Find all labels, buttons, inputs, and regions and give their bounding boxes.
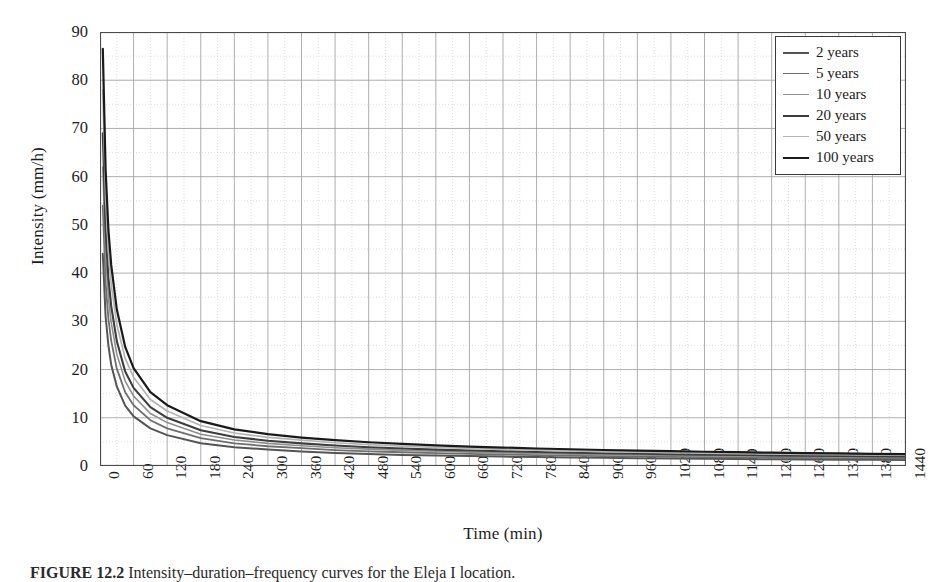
y-tick-label: 80 [42,72,88,89]
legend-line-icon [783,115,809,117]
legend-line-icon [783,73,809,74]
y-tick-label: 30 [42,313,88,330]
legend-item-label: 5 years [816,66,859,81]
caption-text: Intensity–duration–frequency curves for … [124,564,515,581]
legend-item-100-years[interactable]: 100 years [783,147,894,168]
x-axis-title: Time (min) [100,524,906,544]
y-tick-label: 0 [42,458,88,475]
legend-item-2-years[interactable]: 2 years [783,42,894,63]
y-tick-label: 90 [42,24,88,41]
y-tick-label: 70 [42,120,88,137]
legend-line-icon [783,94,809,95]
y-tick-label: 50 [42,217,88,234]
legend-item-label: 2 years [816,45,859,60]
caption-figure-number: FIGURE 12.2 [30,564,124,581]
legend-item-label: 20 years [816,108,866,123]
y-tick-label: 20 [42,362,88,379]
legend-item-50-years[interactable]: 50 years [783,126,894,147]
legend-item-10-years[interactable]: 10 years [783,84,894,105]
legend-line-icon [783,136,809,137]
legend-line-icon [783,52,809,54]
figure-caption: FIGURE 12.2 Intensity–duration–frequency… [30,564,910,582]
legend-item-label: 50 years [816,129,866,144]
y-tick-label: 40 [42,265,88,282]
legend-item-label: 100 years [816,150,874,165]
y-tick-label: 60 [42,169,88,186]
chart-legend: 2 years5 years10 years20 years50 years10… [775,36,901,175]
x-tick-label: 0 [106,471,122,479]
legend-item-5-years[interactable]: 5 years [783,63,894,84]
legend-item-label: 10 years [816,87,866,102]
legend-line-icon [783,157,809,159]
y-tick-label: 10 [42,410,88,427]
x-tick-label: 1440 [912,448,928,479]
legend-item-20-years[interactable]: 20 years [783,105,894,126]
